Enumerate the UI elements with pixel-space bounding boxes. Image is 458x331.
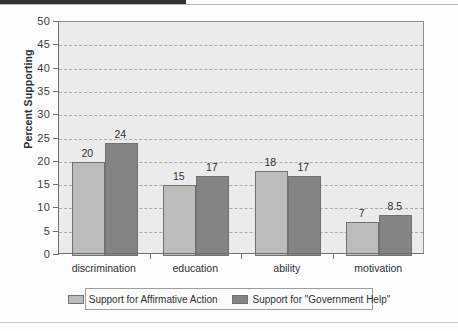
scan-edge-line-top [0, 4, 458, 5]
chart-legend: Support for Affirmative Action Support f… [85, 288, 373, 310]
bar [288, 176, 321, 256]
y-axis-tick [53, 91, 59, 92]
bar-value-label: 24 [114, 128, 126, 140]
legend-label-series-a: Support for Affirmative Action [89, 294, 218, 305]
bar-value-label: 15 [173, 170, 185, 182]
y-axis-tick [53, 254, 59, 255]
y-axis-tick-label: 10 [6, 201, 50, 213]
legend-label-series-b: Support for "Government Help" [253, 294, 391, 305]
y-axis-tick [53, 231, 59, 232]
chart-page: 05101520253035404550 discriminationeduca… [0, 0, 458, 331]
bar [72, 162, 105, 256]
legend-swatch-icon-series-a [68, 295, 84, 304]
x-axis-tick [333, 254, 334, 259]
x-axis-tick-label: discrimination [72, 262, 136, 274]
bar [163, 185, 196, 256]
bar-value-label: 18 [264, 156, 276, 168]
y-axis-tick [53, 138, 59, 139]
x-axis-tick [150, 254, 151, 259]
x-axis-tick-label: motivation [354, 262, 402, 274]
y-axis-tick-label: 0 [6, 248, 50, 260]
y-axis-tick [53, 161, 59, 162]
bar-value-label: 17 [297, 161, 309, 173]
bar [379, 215, 412, 256]
y-axis-tick [53, 114, 59, 115]
x-axis-tick-label: ability [273, 262, 300, 274]
bar-value-label: 8.5 [387, 200, 402, 212]
y-axis-tick [53, 184, 59, 185]
legend-entry-government-help: Support for "Government Help" [232, 294, 391, 305]
bar-value-label: 17 [206, 161, 218, 173]
legend-swatch-icon-series-b [232, 295, 248, 304]
bar-value-label: 20 [81, 147, 93, 159]
y-axis-title: Percent Supporting [22, 19, 34, 179]
y-axis-tick [53, 21, 59, 22]
y-axis-tick-label: 5 [6, 225, 50, 237]
legend-entry-affirmative-action: Support for Affirmative Action [68, 294, 218, 305]
y-axis-tick [53, 68, 59, 69]
bar [196, 176, 229, 256]
y-axis-tick-label: 15 [6, 178, 50, 190]
y-axis-tick [53, 207, 59, 208]
bar [255, 171, 288, 256]
bar [105, 143, 138, 256]
bar-value-label: 7 [359, 207, 365, 219]
scan-edge-line-bottom [0, 322, 458, 323]
plot-area [58, 21, 424, 254]
bar [346, 222, 379, 256]
y-axis-tick [53, 44, 59, 45]
x-axis-tick [241, 254, 242, 259]
x-axis-tick-label: education [172, 262, 218, 274]
